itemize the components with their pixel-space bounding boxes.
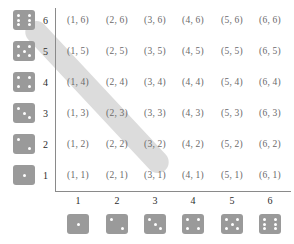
grid-cell: (1, 2) bbox=[59, 139, 97, 149]
grid-cell: (2, 3) bbox=[98, 108, 136, 118]
grid-cell: (3, 4) bbox=[136, 77, 174, 87]
grid-cell: (2, 4) bbox=[98, 77, 136, 87]
die-face-1-bottom bbox=[67, 214, 89, 234]
grid-cell: (5, 1) bbox=[213, 170, 251, 180]
grid-cell: (4, 6) bbox=[174, 15, 212, 25]
vertical-axis-line bbox=[55, 8, 56, 191]
grid-cell: (6, 3) bbox=[251, 108, 289, 118]
die-pip bbox=[197, 218, 200, 221]
die-pip bbox=[110, 218, 113, 221]
grid-cell: (3, 3) bbox=[136, 108, 174, 118]
y-tick-label-1: 1 bbox=[40, 170, 51, 181]
die-face-1-left bbox=[13, 165, 35, 185]
die-pip bbox=[17, 45, 20, 48]
die-pip bbox=[148, 218, 151, 221]
grid-cell: (3, 5) bbox=[136, 46, 174, 56]
grid-cell: (5, 2) bbox=[213, 139, 251, 149]
y-tick-label-2: 2 bbox=[40, 139, 51, 150]
grid-cell: (2, 5) bbox=[98, 46, 136, 56]
y-tick-label-5: 5 bbox=[40, 46, 51, 57]
die-face-3-left bbox=[13, 103, 35, 123]
die-pip bbox=[225, 218, 228, 221]
die-pip bbox=[23, 112, 26, 115]
grid-cell: (1, 1) bbox=[59, 170, 97, 180]
die-pip bbox=[274, 223, 277, 226]
y-tick-label-6: 6 bbox=[40, 15, 51, 26]
die-pip bbox=[28, 147, 31, 150]
die-pip bbox=[17, 107, 20, 110]
x-tick-label-6: 6 bbox=[258, 195, 282, 206]
die-face-6-bottom bbox=[259, 214, 281, 234]
grid-cell: (1, 3) bbox=[59, 108, 97, 118]
grid-cell: (3, 1) bbox=[136, 170, 174, 180]
x-tick-label-2: 2 bbox=[105, 195, 129, 206]
die-pip bbox=[23, 50, 26, 53]
die-face-3-bottom bbox=[144, 214, 166, 234]
grid-cell: (6, 2) bbox=[251, 139, 289, 149]
die-face-2-bottom bbox=[106, 214, 128, 234]
die-pip bbox=[274, 227, 277, 230]
grid-cell: (2, 2) bbox=[98, 139, 136, 149]
die-pip bbox=[77, 223, 80, 226]
die-pip bbox=[28, 19, 31, 22]
die-face-5-left bbox=[13, 41, 35, 61]
die-pip bbox=[17, 85, 20, 88]
die-pip bbox=[154, 223, 157, 226]
die-face-5-bottom bbox=[221, 214, 243, 234]
die-pip bbox=[186, 218, 189, 221]
grid-cell: (5, 5) bbox=[213, 46, 251, 56]
die-pip bbox=[28, 45, 31, 48]
die-face-2-left bbox=[13, 134, 35, 154]
sample-space-figure: 6 5 4 3 2 1 (1, 6) (2, 6) (3, 6) (4, 6) … bbox=[0, 0, 294, 244]
y-tick-label-3: 3 bbox=[40, 108, 51, 119]
die-pip bbox=[17, 54, 20, 57]
die-pip bbox=[28, 116, 31, 119]
die-pip bbox=[17, 19, 20, 22]
die-pip bbox=[28, 54, 31, 57]
x-tick-label-3: 3 bbox=[143, 195, 167, 206]
die-pip bbox=[28, 85, 31, 88]
die-pip bbox=[263, 218, 266, 221]
die-pip bbox=[17, 23, 20, 26]
die-pip bbox=[263, 227, 266, 230]
die-pip bbox=[236, 227, 239, 230]
grid-cell: (5, 4) bbox=[213, 77, 251, 87]
die-pip bbox=[17, 138, 20, 141]
grid-cell: (2, 6) bbox=[98, 15, 136, 25]
die-pip bbox=[17, 14, 20, 17]
grid-cell: (4, 2) bbox=[174, 139, 212, 149]
die-pip bbox=[197, 227, 200, 230]
grid-cell: (6, 6) bbox=[251, 15, 289, 25]
die-pip bbox=[121, 227, 124, 230]
die-face-4-left bbox=[13, 72, 35, 92]
die-pip bbox=[23, 174, 26, 177]
x-tick-label-1: 1 bbox=[66, 195, 90, 206]
grid-cell: (1, 6) bbox=[59, 15, 97, 25]
y-tick-label-4: 4 bbox=[40, 77, 51, 88]
grid-cell: (3, 2) bbox=[136, 139, 174, 149]
die-pip bbox=[231, 223, 234, 226]
grid-cell: (4, 5) bbox=[174, 46, 212, 56]
sum-eight-highlight-band bbox=[21, 16, 173, 177]
grid-cell: (4, 1) bbox=[174, 170, 212, 180]
die-face-4-bottom bbox=[182, 214, 204, 234]
die-pip bbox=[28, 76, 31, 79]
grid-cell: (4, 4) bbox=[174, 77, 212, 87]
die-pip bbox=[28, 23, 31, 26]
grid-cell: (3, 6) bbox=[136, 15, 174, 25]
die-pip bbox=[274, 218, 277, 221]
die-pip bbox=[225, 227, 228, 230]
horizontal-axis-line bbox=[55, 191, 291, 192]
grid-cell: (5, 6) bbox=[213, 15, 251, 25]
x-tick-label-4: 4 bbox=[181, 195, 205, 206]
grid-cell: (2, 1) bbox=[98, 170, 136, 180]
die-pip bbox=[28, 14, 31, 17]
grid-cell: (6, 1) bbox=[251, 170, 289, 180]
grid-cell: (4, 3) bbox=[174, 108, 212, 118]
grid-cell: (6, 5) bbox=[251, 46, 289, 56]
die-face-6-left bbox=[13, 10, 35, 30]
grid-cell: (1, 4) bbox=[59, 77, 97, 87]
die-pip bbox=[236, 218, 239, 221]
grid-cell: (1, 5) bbox=[59, 46, 97, 56]
die-pip bbox=[186, 227, 189, 230]
